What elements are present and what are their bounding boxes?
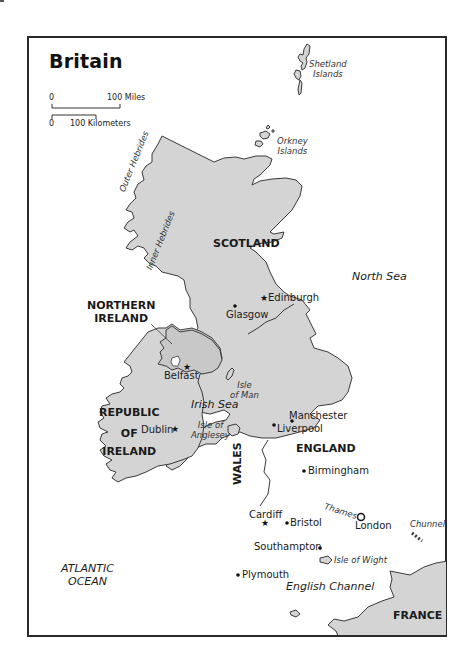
shetland-islands-shape bbox=[294, 44, 310, 95]
isle-of-wight-label: Isle of Wight bbox=[334, 556, 387, 566]
birmingham-label: Birmingham bbox=[308, 465, 369, 477]
southampton-label: Southampton bbox=[254, 541, 322, 553]
plymouth-dot-icon bbox=[236, 573, 240, 577]
edinburgh-label: Edinburgh bbox=[268, 292, 319, 304]
anglesey-label-line2: Anglesey bbox=[191, 431, 230, 441]
orkney-label-line2: Islands bbox=[277, 147, 308, 157]
liverpool-dot-icon bbox=[272, 423, 276, 427]
scale-miles-label: 100 Miles bbox=[107, 93, 145, 102]
shetland-label: Shetland Islands bbox=[309, 60, 347, 80]
atlantic-ocean-label: ATLANTIC OCEAN bbox=[61, 563, 114, 588]
chunnel-line bbox=[412, 533, 422, 541]
northern-ireland-label-line2: IRELAND bbox=[87, 313, 155, 326]
lough-neagh-shape bbox=[171, 356, 180, 366]
glasgow-dot-icon bbox=[233, 304, 237, 308]
glasgow-label: Glasgow bbox=[226, 309, 269, 321]
shetland-label-line2: Islands bbox=[309, 70, 347, 80]
london-label: London bbox=[355, 520, 392, 532]
bristol-dot-icon bbox=[285, 521, 289, 525]
scale-bar bbox=[52, 104, 120, 119]
republic-of-ireland-label-line3: IRELAND bbox=[99, 446, 160, 459]
manchester-label: Manchester bbox=[289, 410, 347, 422]
liverpool-label: Liverpool bbox=[277, 423, 323, 435]
isle-of-wight-shape bbox=[320, 556, 332, 564]
scale-miles-zero: 0 bbox=[49, 93, 54, 102]
orkney-islands-shape bbox=[255, 125, 274, 147]
scale-bar-miles bbox=[52, 104, 120, 108]
orkney-label: Orkney Islands bbox=[277, 137, 308, 157]
wales-label: WALES bbox=[232, 442, 245, 485]
edinburgh-star-icon: ★ bbox=[260, 293, 268, 303]
atlantic-ocean-label-line1: ATLANTIC bbox=[61, 563, 114, 576]
dublin-label: Dublin bbox=[141, 424, 173, 436]
england-label: ENGLAND bbox=[296, 443, 356, 456]
wales-england-border bbox=[260, 440, 270, 506]
plymouth-label: Plymouth bbox=[242, 569, 289, 581]
bristol-label: Bristol bbox=[290, 517, 322, 529]
irish-sea-label: Irish Sea bbox=[191, 399, 239, 412]
chunnel-label: Chunnel bbox=[410, 520, 445, 530]
north-sea-label: North Sea bbox=[352, 271, 407, 284]
birmingham-dot-icon bbox=[302, 469, 306, 473]
anglesey-label: Isle of Anglesey bbox=[191, 421, 230, 441]
map-title: Britain bbox=[49, 50, 123, 72]
northern-ireland-label: NORTHERN IRELAND bbox=[87, 300, 155, 325]
republic-of-ireland-label-line1: REPUBLIC bbox=[99, 407, 160, 420]
scotland-label: SCOTLAND bbox=[213, 238, 280, 251]
cardiff-label: Cardiff bbox=[249, 509, 282, 521]
english-channel-label: English Channel bbox=[286, 581, 374, 594]
france-shape bbox=[290, 561, 450, 641]
belfast-label: Belfast bbox=[164, 370, 199, 382]
scale-km-zero: 0 bbox=[49, 119, 54, 128]
atlantic-ocean-label-line2: OCEAN bbox=[61, 576, 114, 589]
scale-km-label: 100 Kilometers bbox=[70, 119, 131, 128]
france-label: FRANCE bbox=[393, 610, 442, 623]
northern-ireland-label-line1: NORTHERN bbox=[87, 300, 155, 313]
